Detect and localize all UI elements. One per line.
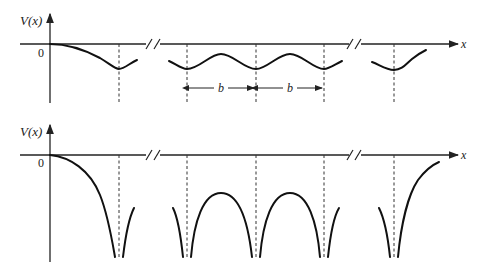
top-axis-break-left	[146, 39, 160, 49]
period-label-b: b	[218, 81, 224, 95]
period-label-b: b	[287, 81, 293, 95]
bottom-axis-break-left	[146, 150, 160, 160]
top-x-axis-label: x	[460, 37, 467, 51]
top-axis-break-right	[347, 39, 361, 49]
bottom-axis-break-right	[347, 150, 361, 160]
bottom-origin-label: 0	[38, 156, 44, 170]
bottom-curve-arch2	[260, 193, 320, 257]
top-y-axis-label: V(x)	[20, 13, 42, 28]
periodic-potential-diagram: V(x) 0 x b	[0, 0, 481, 275]
bottom-curve-cusp2-left	[173, 208, 183, 257]
top-curve-left	[50, 44, 137, 69]
bottom-curve-left-wing	[50, 155, 115, 257]
period-dimension-1: b	[189, 81, 254, 95]
top-panel: V(x) 0 x b	[20, 13, 467, 103]
top-curve-right	[372, 50, 426, 70]
bottom-curve-right-wing	[398, 162, 439, 257]
period-dimension-2: b	[258, 81, 322, 95]
bottom-curve-cusp5-left	[379, 208, 390, 257]
bottom-x-axis-label: x	[460, 148, 467, 162]
bottom-curve-cusp1-right	[123, 208, 134, 257]
bottom-y-axis-label: V(x)	[20, 124, 42, 139]
top-origin-label: 0	[38, 46, 44, 60]
bottom-curve-cusp4-right	[328, 208, 339, 257]
bottom-panel: V(x) 0 x	[20, 124, 467, 262]
bottom-curve-arch1	[191, 193, 252, 257]
